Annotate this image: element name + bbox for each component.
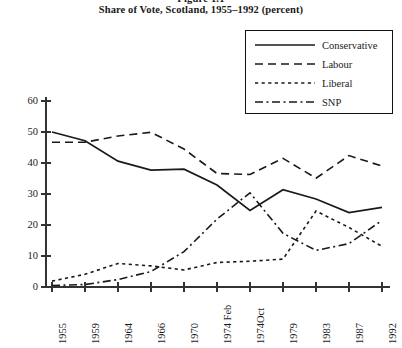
x-tick-label: 1983 (321, 323, 332, 344)
legend-label-snp: SNP (322, 97, 341, 108)
y-tick-label: 0 (12, 281, 38, 292)
y-tick-label: 40 (12, 157, 38, 168)
x-tick-label: 1955 (57, 323, 68, 344)
legend-label-conservative: Conservative (322, 40, 377, 51)
series-line-labour (52, 132, 382, 178)
y-tick-label: 20 (12, 219, 38, 230)
legend-label-labour: Labour (322, 59, 352, 70)
legend-item-snp[interactable]: SNP (254, 95, 388, 109)
x-tick-label: 1966 (156, 323, 167, 344)
chart-series-layer (52, 132, 382, 285)
legend-swatch-labour (254, 59, 316, 69)
legend-swatch-snp (254, 97, 316, 107)
y-tick-label: 60 (12, 95, 38, 106)
chart-legend: Conservative Labour Liberal SNP (245, 30, 393, 114)
legend-label-liberal: Liberal (322, 78, 352, 89)
y-tick-label: 10 (12, 250, 38, 261)
series-line-liberal (52, 211, 382, 281)
legend-swatch-conservative (254, 40, 316, 50)
y-tick-label: 50 (12, 126, 38, 137)
x-tick-label: 1974Oct (255, 308, 266, 344)
y-tick-label: 30 (12, 188, 38, 199)
series-line-conservative (52, 132, 382, 213)
x-tick-label: 1974 Feb (222, 305, 233, 344)
x-tick-label: 1987 (354, 323, 365, 344)
x-tick-label: 1992 (387, 323, 398, 344)
legend-item-labour[interactable]: Labour (254, 57, 388, 71)
legend-swatch-liberal (254, 78, 316, 88)
legend-item-conservative[interactable]: Conservative (254, 38, 388, 52)
x-tick-label: 1970 (189, 323, 200, 344)
x-tick-label: 1979 (288, 323, 299, 344)
x-tick-label: 1964 (123, 323, 134, 344)
legend-item-liberal[interactable]: Liberal (254, 76, 388, 90)
figure-container: Figure 1.1 Share of Vote, Scotland, 1955… (0, 0, 402, 348)
x-tick-label: 1959 (90, 323, 101, 344)
